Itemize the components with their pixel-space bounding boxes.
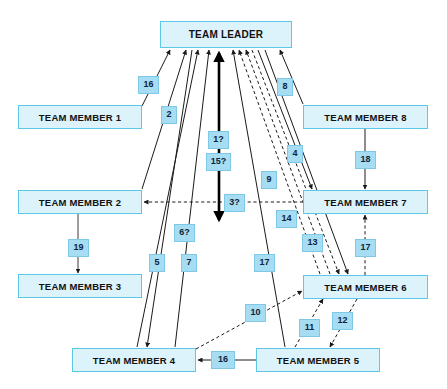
node-team-member-3[interactable]: TEAM MEMBER 3 [18, 274, 142, 298]
edge-label-18[interactable]: 18 [355, 151, 376, 169]
node-team-member-7[interactable]: TEAM MEMBER 7 [303, 190, 428, 214]
node-team-member-4[interactable]: TEAM MEMBER 4 [72, 348, 196, 372]
edge-label-6q[interactable]: 6? [174, 224, 195, 242]
node-team-member-2-label: TEAM MEMBER 2 [39, 197, 121, 208]
edge-label-19[interactable]: 19 [68, 239, 89, 257]
node-team-member-8[interactable]: TEAM MEMBER 8 [303, 105, 428, 129]
team-communication-diagram: TEAM LEADER TEAM MEMBER 1 TEAM MEMBER 8 … [0, 0, 447, 389]
node-team-member-4-label: TEAM MEMBER 4 [93, 355, 175, 366]
edge-label-17-member6-member7[interactable]: 17 [355, 239, 376, 257]
node-team-member-6-label: TEAM MEMBER 6 [324, 282, 406, 293]
edge-label-11[interactable]: 11 [299, 319, 320, 337]
node-team-member-1[interactable]: TEAM MEMBER 1 [18, 105, 142, 129]
node-team-member-3-label: TEAM MEMBER 3 [39, 281, 121, 292]
edge-label-5[interactable]: 5 [149, 254, 165, 272]
edge-6-member4-leader [137, 50, 198, 347]
edge-label-7[interactable]: 7 [181, 254, 197, 272]
edge-label-4[interactable]: 4 [287, 145, 303, 163]
edge-label-10[interactable]: 10 [245, 304, 266, 322]
edge-label-2[interactable]: 2 [161, 106, 177, 124]
edge-7-member4-leader [175, 50, 209, 347]
node-team-member-8-label: TEAM MEMBER 8 [324, 112, 406, 123]
edge-label-17-member5-leader[interactable]: 17 [254, 254, 275, 272]
node-team-member-5-label: TEAM MEMBER 5 [277, 355, 359, 366]
edge-label-16-member5-member4[interactable]: 16 [211, 351, 235, 369]
edge-label-13[interactable]: 13 [302, 234, 323, 252]
node-team-member-5[interactable]: TEAM MEMBER 5 [256, 348, 380, 372]
edge-label-3q[interactable]: 3? [224, 194, 245, 212]
edge-label-14[interactable]: 14 [276, 210, 297, 228]
edge-label-8[interactable]: 8 [277, 78, 293, 96]
node-team-leader[interactable]: TEAM LEADER [160, 21, 292, 48]
edge-label-15q[interactable]: 15? [206, 153, 231, 171]
node-team-member-1-label: TEAM MEMBER 1 [39, 112, 121, 123]
node-team-member-2[interactable]: TEAM MEMBER 2 [18, 190, 142, 214]
edge-label-12[interactable]: 12 [332, 312, 353, 330]
node-team-member-7-label: TEAM MEMBER 7 [324, 197, 406, 208]
edge-5-leader-member4 [147, 50, 192, 347]
edge-label-16-member1[interactable]: 16 [138, 76, 159, 94]
edge-label-9[interactable]: 9 [261, 171, 277, 189]
node-team-leader-label: TEAM LEADER [189, 29, 263, 40]
node-team-member-6[interactable]: TEAM MEMBER 6 [303, 275, 428, 299]
edge-label-1q[interactable]: 1? [208, 131, 229, 149]
